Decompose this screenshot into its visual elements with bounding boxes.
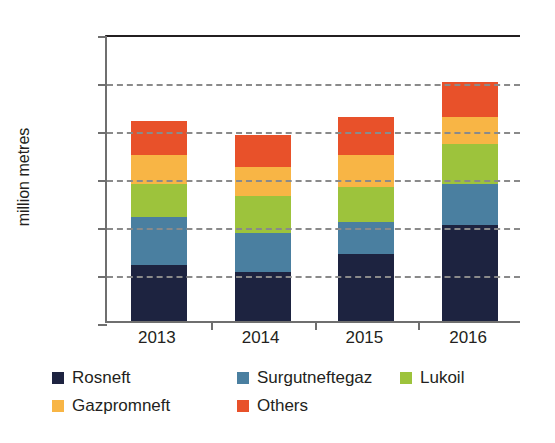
legend-swatch-icon <box>237 372 249 384</box>
legend-row: RosneftSurgutneftegazLukoil <box>52 364 522 392</box>
chart-legend: RosneftSurgutneftegazLukoilGazpromneftOt… <box>52 364 522 420</box>
bar-segment[interactable] <box>442 225 498 321</box>
y-tick-mark <box>98 132 107 134</box>
legend-swatch-icon <box>237 400 249 412</box>
bar-segment[interactable] <box>442 144 498 183</box>
gridline <box>107 132 520 134</box>
bar-segment[interactable] <box>131 184 187 218</box>
bar-segment[interactable] <box>235 272 291 321</box>
bar-stack[interactable] <box>338 117 394 321</box>
bars-layer <box>107 37 520 321</box>
bar-segment[interactable] <box>338 187 394 223</box>
gridline <box>107 180 520 182</box>
y-tick-mark <box>98 276 107 278</box>
bar-segment[interactable] <box>131 121 187 155</box>
y-tick-mark <box>98 36 107 38</box>
legend-label: Surgutneftegaz <box>257 368 372 388</box>
x-tick-label: 2015 <box>324 328 404 348</box>
legend-item[interactable]: Rosneft <box>52 368 131 388</box>
stacked-bar-chart: million metres 051015202530 201320142015… <box>0 0 555 443</box>
x-tick-label: 2016 <box>428 328 508 348</box>
legend-item[interactable]: Others <box>237 396 308 416</box>
bar-stack[interactable] <box>442 82 498 321</box>
legend-swatch-icon <box>52 400 64 412</box>
legend-label: Gazpromneft <box>72 396 170 416</box>
legend-swatch-icon <box>52 372 64 384</box>
gridline <box>107 228 520 230</box>
bar-segment[interactable] <box>442 117 498 145</box>
gridline <box>107 84 520 86</box>
bar-segment[interactable] <box>338 254 394 321</box>
y-tick-mark <box>98 180 107 182</box>
x-axis-labels: 2013201420152016 <box>105 328 520 358</box>
legend-label: Lukoil <box>420 368 464 388</box>
bar-segment[interactable] <box>442 82 498 117</box>
y-axis-label: million metres <box>15 87 33 267</box>
y-tick-mark <box>98 228 107 230</box>
bar-segment[interactable] <box>235 135 291 168</box>
legend-item[interactable]: Lukoil <box>400 368 464 388</box>
plot-area: 051015202530 <box>105 35 520 323</box>
legend-label: Rosneft <box>72 368 131 388</box>
legend-row: GazpromneftOthers <box>52 392 522 420</box>
bar-segment[interactable] <box>131 217 187 265</box>
bar-segment[interactable] <box>235 233 291 272</box>
legend-item[interactable]: Gazpromneft <box>52 396 170 416</box>
legend-item[interactable]: Surgutneftegaz <box>237 368 372 388</box>
bar-segment[interactable] <box>442 184 498 225</box>
y-tick-mark <box>98 324 107 326</box>
x-tick-label: 2013 <box>117 328 197 348</box>
x-tick-label: 2014 <box>221 328 301 348</box>
bar-stack[interactable] <box>131 121 187 321</box>
y-tick-mark <box>98 84 107 86</box>
gridline <box>107 276 520 278</box>
legend-label: Others <box>257 396 308 416</box>
bar-segment[interactable] <box>131 265 187 321</box>
bar-segment[interactable] <box>338 222 394 254</box>
legend-swatch-icon <box>400 372 412 384</box>
bar-segment[interactable] <box>338 117 394 155</box>
